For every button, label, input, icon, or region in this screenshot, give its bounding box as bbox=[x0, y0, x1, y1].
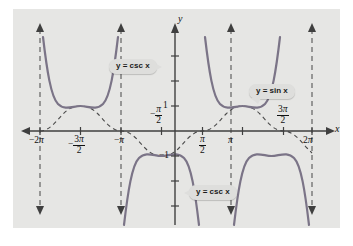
x-axis-label: x bbox=[335, 123, 339, 134]
xtick-2pi: 2π bbox=[303, 136, 313, 146]
callout-csc-upper: y = csc x bbox=[109, 59, 157, 74]
xtick-pi: π bbox=[228, 136, 233, 146]
xtick-neg3pi-over-2: −3π2 bbox=[68, 135, 85, 155]
csc-branch-4 bbox=[234, 154, 309, 225]
callout-sin-right-label: y = sin x bbox=[256, 86, 288, 95]
xtick-negpi-over-2: −π2 bbox=[150, 105, 162, 125]
asymptote-arrowheads bbox=[36, 23, 316, 215]
xtick-negpi: −π bbox=[114, 136, 124, 146]
y-axis bbox=[171, 23, 179, 225]
callout-csc-upper-label: y = csc x bbox=[116, 61, 150, 70]
xtick-pi-over-2: π2 bbox=[199, 135, 206, 155]
callout-csc-lower-label: y = csc x bbox=[196, 187, 230, 196]
callout-tail-icon bbox=[251, 98, 261, 104]
xtick-neg2pi: −2π bbox=[29, 136, 44, 146]
plot-panel: y x −2π −3π2 −π −π2 π2 π 3π2 2π 1 −1 y =… bbox=[13, 9, 340, 228]
figure-container: y x −2π −3π2 −π −π2 π2 π 3π2 2π 1 −1 y =… bbox=[0, 0, 353, 246]
callout-tail-icon bbox=[156, 64, 162, 70]
xtick-3pi-over-2: 3π2 bbox=[277, 105, 289, 125]
callout-sin-right: y = sin x bbox=[249, 84, 295, 99]
csc-branch-1 bbox=[43, 37, 118, 108]
plot-svg bbox=[13, 9, 340, 228]
callout-tail-icon bbox=[184, 190, 190, 196]
ytick-1: 1 bbox=[163, 101, 168, 111]
y-axis-label: y bbox=[178, 13, 182, 24]
ytick-neg1: −1 bbox=[159, 151, 169, 161]
x-axis bbox=[21, 127, 335, 135]
callout-csc-lower: y = csc x bbox=[189, 185, 237, 200]
